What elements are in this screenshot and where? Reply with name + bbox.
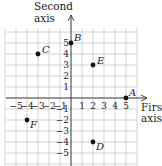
point-A [124,96,129,101]
point-F [25,118,30,123]
y-tick-label: 1 [63,82,69,92]
point-label-C: C [42,44,50,55]
point-D [91,140,96,145]
point-C [36,52,41,57]
point-label-E: E [96,55,105,66]
data-points: ABCDEF [25,32,137,152]
point-E [91,63,96,68]
x-tick-labels: −5−4−3−2−112345 [9,101,129,111]
x-tick-label: 1 [79,101,85,111]
point-label-F: F [29,119,38,130]
coordinate-plane: −5−4−3−2−112345 −5−4−3−2−112345 ABCDEF S… [0,0,162,166]
y-axis-label-line2: axis [34,12,55,24]
x-tick-label: 3 [101,101,107,111]
y-tick-label: 4 [63,49,69,59]
y-tick-label: −3 [56,126,70,136]
point-label-A: A [128,87,136,98]
y-tick-label: 3 [63,60,69,70]
x-tick-label: 2 [90,101,96,111]
x-axis-label-line2: axis [141,112,162,124]
point-B [69,41,74,46]
y-tick-label: −2 [56,115,69,125]
y-tick-label: −4 [56,137,70,147]
y-tick-label: −1 [56,104,69,114]
point-label-D: D [95,141,104,152]
y-axis-label-line1: Second [34,0,73,12]
y-tick-label: −5 [56,148,70,158]
x-tick-label: 5 [123,101,129,111]
y-tick-label: 5 [63,38,69,48]
point-label-B: B [73,32,81,43]
y-tick-label: 2 [63,71,69,81]
x-tick-label: 4 [112,101,118,111]
